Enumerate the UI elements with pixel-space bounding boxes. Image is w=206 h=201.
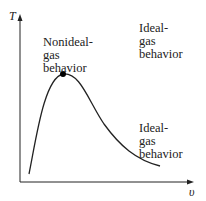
t-v-diagram: T υ Nonideal- gas behavior Ideal- gas be… (0, 0, 206, 201)
ideal-gas-label-bottom: Ideal- gas behavior (139, 122, 183, 161)
y-axis-arrow-icon (18, 14, 23, 21)
nonideal-gas-label: Nonideal- gas behavior (43, 36, 93, 75)
x-axis-arrow-icon (187, 180, 194, 185)
ideal-gas-label-top: Ideal- gas behavior (139, 22, 183, 61)
x-axis-label: υ (189, 185, 195, 200)
y-axis-label: T (9, 9, 16, 24)
